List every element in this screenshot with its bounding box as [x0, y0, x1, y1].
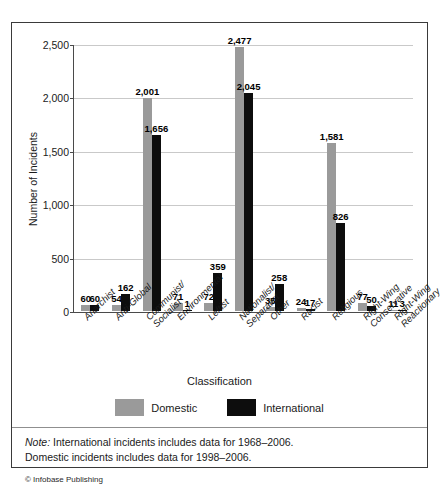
y-tick-mark	[70, 205, 74, 206]
bar-group: 2,0011,656	[136, 45, 167, 311]
y-tick-label: 2,000	[43, 92, 69, 104]
bar-groups: 6060541622,0011,656711723592,4772,045352…	[75, 45, 413, 311]
bar-group: 2,4772,045	[229, 45, 260, 311]
chart-legend: DomesticInternational	[12, 399, 427, 416]
chart-notes: Note: International incidents includes d…	[25, 435, 417, 465]
copyright-credit: © Infobase Publishing	[25, 475, 103, 484]
bar-group: 113	[382, 45, 413, 311]
bar-value-label: 2,001	[135, 86, 159, 97]
y-tick-label: 1,000	[43, 199, 69, 211]
bar-value-label: 162	[118, 282, 134, 293]
bar-value-label: 2,045	[237, 81, 261, 92]
y-tick-mark	[70, 98, 74, 99]
bar-value-label: 1,656	[144, 123, 168, 134]
note-text: International incidents includes data fo…	[50, 436, 293, 448]
y-tick-mark	[70, 152, 74, 153]
plot-area-wrapper: Number of Incidents 05001,0001,5002,0002…	[73, 45, 413, 313]
bar-group: 2417	[290, 45, 321, 311]
note-line: Note: International incidents includes d…	[25, 435, 417, 450]
plot-area: 05001,0001,5002,0002,500 6060541622,0011…	[73, 45, 413, 313]
bar-group: 54162	[106, 45, 137, 311]
bar-value-label: 826	[333, 211, 349, 222]
bar-value-label: 2,477	[228, 35, 252, 46]
legend-label: International	[263, 402, 324, 414]
y-tick-label: 0	[63, 306, 69, 318]
legend-item[interactable]: International	[227, 399, 324, 416]
bar-value-label: 258	[271, 272, 287, 283]
divider	[12, 427, 427, 428]
note-text: Domestic incidents includes data for 199…	[25, 451, 251, 463]
chart-figure: Number of Incidents 05001,0001,5002,0002…	[11, 22, 428, 468]
bar-international[interactable]: 2,045	[244, 93, 253, 311]
legend-swatch	[227, 399, 256, 416]
bar-international[interactable]: 1,656	[152, 135, 161, 311]
legend-label: Domestic	[151, 402, 197, 414]
y-tick-mark	[70, 45, 74, 46]
bar-group: 7750	[352, 45, 383, 311]
legend-item[interactable]: Domestic	[115, 399, 197, 416]
legend-swatch	[115, 399, 144, 416]
bar-domestic[interactable]: 1,581	[327, 143, 336, 311]
bar-group: 35258	[259, 45, 290, 311]
bar-value-label: 359	[210, 261, 226, 272]
bar-group: 1,581826	[321, 45, 352, 311]
x-axis-tick-labels: AnarchistAnti-GlobalCommunist/SocialistE…	[73, 313, 413, 375]
bar-group: 72359	[198, 45, 229, 311]
y-tick-label: 1,500	[43, 146, 69, 158]
bar-group: 711	[167, 45, 198, 311]
x-axis-title: Classification	[12, 375, 427, 387]
y-tick-label: 500	[51, 253, 69, 265]
bar-value-label: 1,581	[320, 131, 344, 142]
y-axis-title: Number of Incidents	[27, 132, 39, 226]
note-lead: Note:	[25, 436, 50, 448]
y-tick-label: 2,500	[43, 39, 69, 51]
y-tick-mark	[70, 259, 74, 260]
bar-group: 6060	[75, 45, 106, 311]
note-line: Domestic incidents includes data for 199…	[25, 450, 417, 465]
